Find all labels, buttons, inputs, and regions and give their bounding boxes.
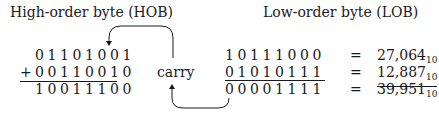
lob-result: 00001111 [225,81,325,97]
lob-operand-1: 10111000 [225,47,325,63]
lob-header: Low-order byte (LOB) [263,4,418,20]
carry-arrow-from-lob [172,88,229,108]
arrowhead-up-icon [169,84,175,89]
hob-operand-2-row: + 00110010 [20,64,117,82]
hob-operand-2: 00110010 [35,64,135,80]
arrowhead-down-icon [106,41,112,46]
equals-sign: = [350,47,362,63]
decimal-sum: 39,95110 [377,81,437,99]
lob-operand-2: 01010111 [225,64,325,81]
equals-sign: = [350,81,362,97]
hob-result: 10011100 [35,81,135,97]
hob-header: High-order byte (HOB) [10,4,173,20]
equals-sign: = [350,64,362,80]
decimal-value-1: 27,06410 [377,47,437,65]
hob-operand-1: 01101001 [35,47,135,63]
plus-sign: + [20,64,35,80]
carry-label: carry [157,64,194,80]
